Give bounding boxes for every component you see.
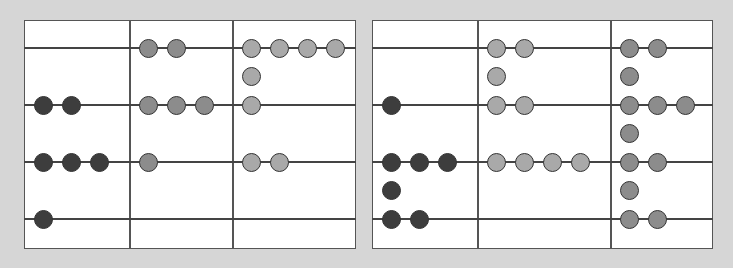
column-divider	[610, 20, 612, 249]
dark-bead	[382, 96, 401, 115]
dark-bead	[410, 153, 429, 172]
light-bead	[270, 153, 289, 172]
mid-bead	[139, 96, 158, 115]
column-divider	[477, 20, 479, 249]
mid-bead	[648, 96, 667, 115]
mid-bead	[620, 181, 639, 200]
light-bead	[242, 153, 261, 172]
mid-bead	[139, 153, 158, 172]
mid-bead	[620, 124, 639, 143]
dark-bead	[410, 210, 429, 229]
dark-bead	[382, 181, 401, 200]
mid-bead	[648, 39, 667, 58]
light-bead	[515, 39, 534, 58]
mid-bead	[648, 153, 667, 172]
column-divider	[232, 20, 234, 249]
mid-bead	[167, 39, 186, 58]
dark-bead	[382, 153, 401, 172]
column-divider	[129, 20, 131, 249]
light-bead	[487, 96, 506, 115]
light-bead	[242, 67, 261, 86]
dark-bead	[34, 153, 53, 172]
mid-bead	[620, 210, 639, 229]
light-bead	[487, 67, 506, 86]
light-bead	[515, 96, 534, 115]
mid-bead	[676, 96, 695, 115]
mid-bead	[620, 96, 639, 115]
mid-bead	[139, 39, 158, 58]
dark-bead	[34, 96, 53, 115]
mid-bead	[620, 67, 639, 86]
dark-bead	[62, 96, 81, 115]
light-bead	[242, 96, 261, 115]
mid-bead	[648, 210, 667, 229]
mid-bead	[620, 39, 639, 58]
rod-line	[24, 218, 356, 220]
light-bead	[515, 153, 534, 172]
light-bead	[487, 153, 506, 172]
mid-bead	[620, 153, 639, 172]
dark-bead	[438, 153, 457, 172]
light-bead	[487, 39, 506, 58]
dark-bead	[34, 210, 53, 229]
mid-bead	[167, 96, 186, 115]
light-bead	[270, 39, 289, 58]
light-bead	[543, 153, 562, 172]
dark-bead	[90, 153, 109, 172]
mid-bead	[195, 96, 214, 115]
dark-bead	[62, 153, 81, 172]
light-bead	[571, 153, 590, 172]
dark-bead	[382, 210, 401, 229]
light-bead	[242, 39, 261, 58]
light-bead	[326, 39, 345, 58]
light-bead	[298, 39, 317, 58]
